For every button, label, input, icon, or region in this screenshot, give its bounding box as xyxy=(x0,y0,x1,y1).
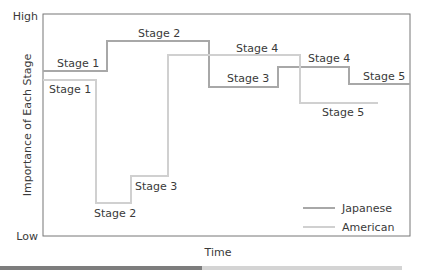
jp-stage1-label: Stage 1 xyxy=(57,57,99,70)
y-high-label: High xyxy=(13,10,38,23)
jp-stage4-label: Stage 4 xyxy=(308,52,350,65)
bottom-divider-dark xyxy=(0,266,202,270)
y-low-label: Low xyxy=(16,230,38,243)
chart-svg: High Low Importance of Each Stage Time S… xyxy=(0,0,425,274)
us-stage5-label: Stage 5 xyxy=(322,106,364,119)
us-stage3-label: Stage 3 xyxy=(135,180,177,193)
legend: Japanese American xyxy=(303,202,394,234)
legend-japanese-label: Japanese xyxy=(341,202,392,215)
legend-american-label: American xyxy=(342,221,394,234)
us-stage4-label: Stage 4 xyxy=(236,42,278,55)
american-line xyxy=(43,55,378,203)
jp-stage5-label: Stage 5 xyxy=(363,70,405,83)
us-stage1-label: Stage 1 xyxy=(49,83,91,96)
y-axis-title: Importance of Each Stage xyxy=(21,53,34,196)
jp-stage3-label: Stage 3 xyxy=(227,72,269,85)
chart-figure: High Low Importance of Each Stage Time S… xyxy=(0,0,425,274)
x-axis-title: Time xyxy=(204,246,232,259)
bottom-divider-light xyxy=(202,266,402,270)
us-stage2-label: Stage 2 xyxy=(94,207,136,220)
jp-stage2-label: Stage 2 xyxy=(138,27,180,40)
